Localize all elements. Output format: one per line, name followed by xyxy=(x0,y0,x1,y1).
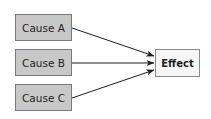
cause-b-node: Cause B xyxy=(15,49,72,76)
cause-effect-diagram: Cause A Cause B Cause C Effect xyxy=(0,0,211,119)
edge-cause-a-to-effect xyxy=(72,28,154,56)
cause-c-node: Cause C xyxy=(15,84,72,111)
cause-a-label: Cause A xyxy=(22,22,65,34)
cause-a-node: Cause A xyxy=(15,14,72,41)
effect-node: Effect xyxy=(155,49,200,77)
cause-b-label: Cause B xyxy=(22,57,65,69)
edge-cause-c-to-effect xyxy=(72,70,154,98)
cause-c-label: Cause C xyxy=(22,92,65,104)
effect-label: Effect xyxy=(161,58,193,69)
